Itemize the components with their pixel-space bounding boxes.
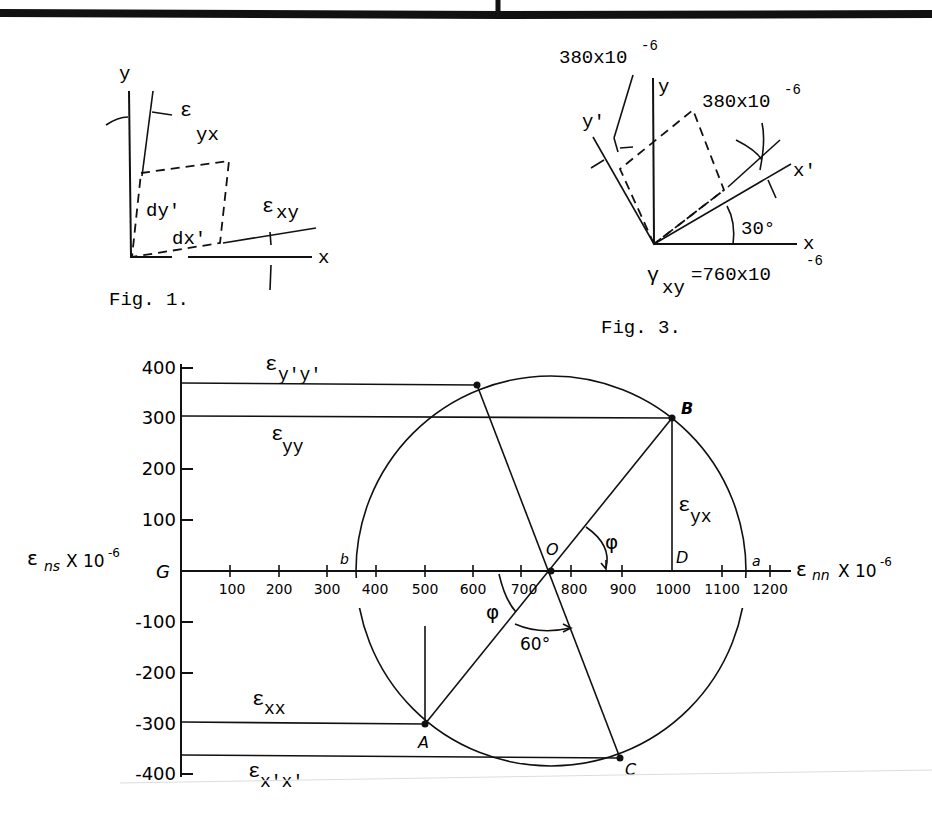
fig3-gamma-symbol: γ	[647, 264, 659, 287]
fig1-rotated-y-line	[142, 91, 153, 176]
fig3-gamma-value: =760x10	[691, 264, 771, 286]
fig3-30-arc	[727, 206, 734, 245]
svg-text:400: 400	[362, 581, 389, 597]
fig3-y-prime-axis	[593, 137, 654, 244]
point-A	[422, 721, 429, 728]
fig1-dx-label: dx'	[172, 228, 206, 250]
label-A: A	[417, 733, 429, 752]
label-b: b	[340, 551, 349, 567]
y-axis-label-eps: ε	[27, 546, 38, 570]
phi-arrow-upper	[601, 560, 606, 569]
label-phi-upper: φ	[605, 530, 618, 554]
label-phi-lower: φ	[486, 600, 499, 624]
svg-text:-100: -100	[135, 611, 176, 632]
label-B: B	[681, 399, 693, 418]
fig3-y-label: y	[658, 76, 669, 98]
fig3-y-axis	[653, 78, 654, 244]
label-eps-yx-sub: yx	[690, 507, 712, 527]
fig3-gamma-exp: -6	[806, 253, 823, 269]
fig1-leader-eps-xy	[270, 232, 271, 245]
x-axis-label-exp: -6	[880, 555, 892, 569]
svg-text:300: 300	[314, 581, 341, 597]
svg-text:900: 900	[610, 581, 637, 597]
svg-text:200: 200	[266, 581, 293, 597]
point-B	[669, 415, 676, 422]
label-D: D	[676, 548, 688, 567]
svg-text:100: 100	[219, 581, 246, 597]
x-axis-label-eps: ε	[796, 557, 807, 581]
label-60deg: 60°	[520, 634, 550, 654]
mohr-circle-chart: ε ns X 10 -6 G ε nn X 10 -6 400 300 200 …	[27, 353, 892, 792]
svg-text:500: 500	[412, 581, 439, 597]
point-O	[548, 568, 555, 575]
label-eps-xpxp-sub: x'x'	[260, 772, 303, 792]
label-eps-yy-sub: yy	[282, 437, 304, 457]
x-axis-label-unit: X 10	[838, 561, 877, 581]
fig3-strain-top: 380x10	[559, 47, 627, 69]
diagram-canvas: y x ε yx ε xy dy' dx' Fig. 1. 380x10 -6 …	[0, 0, 932, 814]
fig3-leader-top	[614, 75, 633, 138]
figure-1: y x ε yx ε xy dy' dx' Fig. 1.	[106, 63, 329, 311]
svg-text:700: 700	[511, 581, 538, 597]
point-C	[617, 755, 624, 762]
svg-text:1200: 1200	[752, 581, 788, 597]
figure-3: 380x10 -6 380x10 -6 y y' x x' 30° γ xy =…	[559, 38, 823, 339]
y-axis-label-unit: X 10	[66, 551, 105, 571]
fig1-eps-yx-sub: yx	[196, 124, 219, 146]
fig1-caption: Fig. 1.	[109, 289, 189, 311]
fig3-deformed-element	[620, 110, 724, 244]
label-eps-ypyp: ε	[265, 353, 278, 376]
fig3-gamma-sub: xy	[662, 277, 685, 299]
svg-text:1100: 1100	[704, 581, 740, 597]
label-O: O	[546, 540, 559, 559]
fig1-eps-yx-symbol: ε	[180, 99, 192, 122]
fig3-strain-mid: 380x10	[702, 91, 770, 113]
fig1-x-label: x	[318, 247, 329, 269]
fig3-x-offset-line	[728, 140, 780, 187]
svg-text:-400: -400	[135, 763, 176, 784]
phi-arc-upper	[586, 527, 607, 568]
fig3-y-arrows	[614, 138, 633, 152]
angle60-arc	[515, 624, 570, 631]
fig3-angle-label: 30°	[741, 218, 775, 240]
fig1-arrow-bottom	[270, 265, 271, 290]
point-Cprime	[474, 382, 481, 389]
label-eps-xpxp: ε	[248, 760, 261, 783]
y-axis-label-exp: -6	[108, 546, 120, 560]
fig3-y-prime-label: y'	[582, 111, 605, 133]
fig1-arrow-left	[106, 117, 128, 125]
fig3-x-prime-tick	[768, 180, 776, 198]
svg-text:100: 100	[142, 509, 176, 530]
fig1-eps-xy-symbol: ε	[262, 195, 274, 218]
circle-gap-a	[740, 578, 750, 608]
svg-text:400: 400	[142, 357, 176, 378]
svg-text:200: 200	[142, 458, 176, 479]
label-eps-xx: ε	[252, 688, 265, 711]
fig3-y-prime-tick	[591, 160, 604, 168]
label-C: C	[625, 760, 637, 779]
fig3-x-prime-label: x'	[793, 160, 816, 182]
label-eps-ypyp-sub: y'y'	[278, 365, 321, 385]
label-a: a	[752, 553, 761, 569]
x-axis-label-sub: nn	[812, 567, 830, 583]
line-eps-xx	[181, 722, 425, 724]
fig3-x-angle-arc	[736, 123, 764, 170]
origin-G: G	[156, 561, 170, 582]
svg-text:300: 300	[142, 407, 176, 428]
fig1-arrow-eps-yx	[152, 112, 172, 115]
fig1-dy-label: dy'	[146, 200, 180, 222]
fig1-eps-xy-sub: xy	[276, 202, 299, 224]
label-eps-yx: ε	[678, 494, 691, 517]
svg-text:600: 600	[460, 581, 487, 597]
line-eps-xpxp	[181, 755, 620, 758]
page-edge	[120, 770, 932, 783]
line-eps-ypyp	[181, 383, 477, 385]
svg-text:-300: -300	[135, 713, 176, 734]
frame-border	[0, 13, 932, 15]
line-eps-yy	[181, 416, 672, 418]
fig1-y-label: y	[119, 63, 130, 85]
y-axis-label-sub: ns	[44, 558, 60, 574]
fig3-caption: Fig. 3.	[601, 317, 681, 339]
fig3-x-label: x	[803, 233, 814, 255]
fig3-strain-top-exp: -6	[641, 38, 658, 54]
